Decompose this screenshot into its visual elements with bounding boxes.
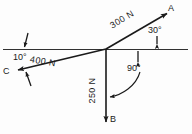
point-c-label: C [3, 67, 10, 76]
diagram-canvas [0, 0, 192, 134]
point-a-label: A [168, 4, 174, 13]
angle-b-arc [110, 72, 140, 97]
point-b-label: B [110, 115, 116, 124]
angle-c-label: 10° [13, 53, 27, 62]
angle-c-indicator-arrow-top [25, 33, 29, 47]
angle-b-label: 90° [127, 64, 141, 73]
angle-a-label: 30° [148, 26, 162, 35]
force-vector-diagram: A B C 300 N 400 N 250 N 10° 30° 90° [0, 0, 192, 134]
angle-c-indicator-arrow-bottom [26, 72, 31, 86]
force-b-magnitude-label: 250 N [88, 77, 97, 103]
